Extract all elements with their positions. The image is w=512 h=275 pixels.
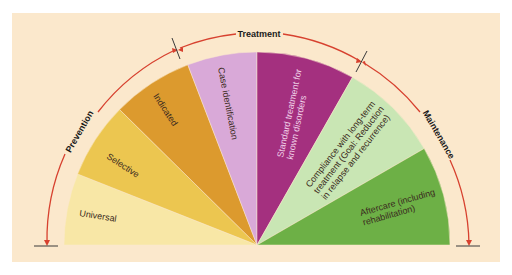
intervention-spectrum-diagram: Treatment Prevention Maintenance Univers… [0, 0, 512, 275]
maintenance-arc-lower [450, 160, 469, 244]
treatment-arc-left [180, 34, 236, 48]
prevention-arc [47, 154, 65, 244]
arrowhead-down-left [44, 240, 50, 246]
arrowhead-maint-right [362, 61, 366, 66]
phase-label-treatment: Treatment [237, 29, 280, 39]
arrowhead-down-right [466, 240, 472, 246]
